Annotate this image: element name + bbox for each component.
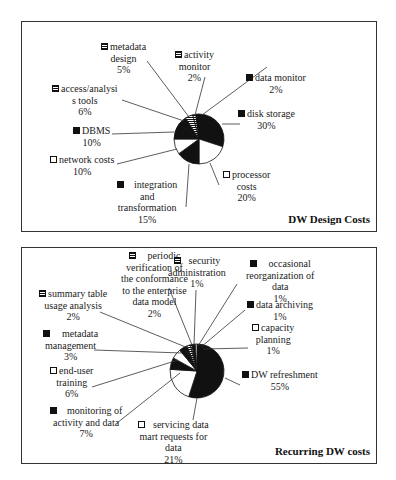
label-metadata-design: metadata design 5% bbox=[101, 41, 146, 76]
legend-marker-icon bbox=[175, 51, 182, 58]
legend-marker-icon bbox=[117, 181, 124, 188]
legend-marker-icon bbox=[129, 252, 136, 259]
label-data-archiving: data archiving 1% bbox=[247, 299, 313, 322]
legend-marker-icon bbox=[50, 156, 57, 163]
legend-marker-icon bbox=[250, 260, 257, 267]
label-occasional-reorganization: occasional reorganization of data 1% bbox=[246, 258, 314, 304]
legend-marker-icon bbox=[50, 407, 57, 414]
legend-marker-icon bbox=[223, 171, 230, 178]
legend-marker-icon bbox=[52, 85, 59, 92]
label-disk-storage: disk storage 30% bbox=[238, 108, 295, 131]
label-dw-refreshment: DW refreshment 55% bbox=[242, 369, 318, 392]
label-processor-costs: processor costs 20% bbox=[223, 169, 270, 204]
legend-marker-icon bbox=[246, 74, 253, 81]
legend-marker-icon bbox=[50, 367, 57, 374]
label-monitoring-activity: monitoring of activity and data 7% bbox=[50, 405, 122, 440]
chart-design-costs: metadata design 5% activity monitor 2% d… bbox=[21, 21, 377, 232]
legend-marker-icon bbox=[242, 371, 249, 378]
label-network-costs: network costs 10% bbox=[50, 154, 114, 177]
label-dbms: DBMS 10% bbox=[73, 125, 110, 148]
legend-marker-icon bbox=[39, 290, 46, 297]
label-access-analysis-tools: access/analysi s tools 6% bbox=[52, 83, 118, 118]
chart-recurring-costs: periodic verification of the conformance… bbox=[21, 247, 377, 464]
label-capacity-planning: capacity planning 1% bbox=[252, 322, 294, 357]
chart-title: Recurring DW costs bbox=[275, 445, 370, 457]
label-data-monitor: data monitor 2% bbox=[246, 72, 306, 95]
legend-marker-icon bbox=[101, 43, 108, 50]
legend-marker-icon bbox=[174, 257, 181, 264]
label-integration-transformation: integration and transformation 15% bbox=[117, 179, 177, 225]
label-metadata-management: metadata management 3% bbox=[43, 328, 98, 363]
legend-marker-icon bbox=[252, 324, 259, 331]
label-end-user-training: end-user training 6% bbox=[50, 365, 93, 400]
legend-marker-icon bbox=[247, 301, 254, 308]
label-security-administration: security administration 1% bbox=[168, 255, 226, 290]
legend-marker-icon bbox=[43, 330, 50, 337]
label-summary-table-usage: summary table usage analysis 2% bbox=[39, 288, 107, 323]
legend-marker-icon bbox=[138, 421, 145, 428]
legend-marker-icon bbox=[238, 110, 245, 117]
label-activity-monitor: activity monitor 2% bbox=[175, 49, 214, 84]
label-servicing-data-mart: servicing data mart requests for data 21… bbox=[138, 419, 209, 465]
chart-title: DW Design Costs bbox=[288, 213, 370, 225]
legend-marker-icon bbox=[73, 127, 80, 134]
